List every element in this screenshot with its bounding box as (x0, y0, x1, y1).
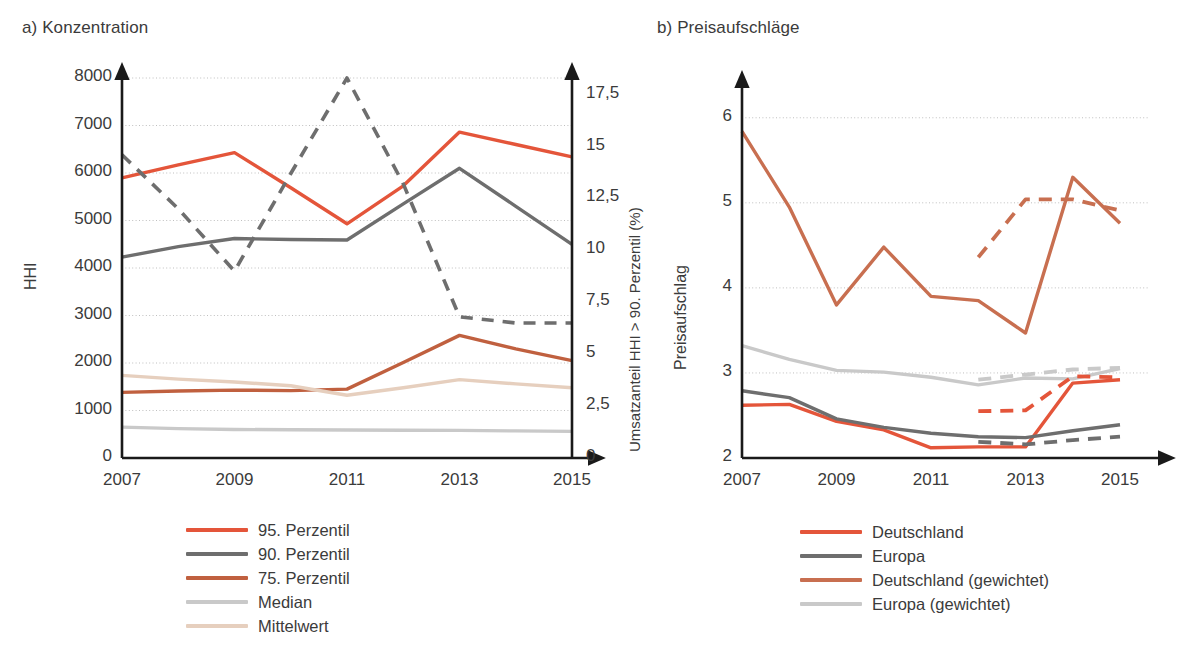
legend-swatch-icon (800, 530, 862, 534)
panel-preisaufschlaege: b) Preisaufschläge Preisaufschlag Deutsc… (650, 0, 1181, 653)
legend-label: Median (258, 593, 312, 612)
y2-tick-a-7,5: 7,5 (586, 290, 632, 310)
y2-tick-a-2,5: 2,5 (586, 394, 632, 414)
legend-swatch-icon (800, 578, 862, 582)
legend-item-a-4[interactable]: Mittelwert (186, 614, 350, 638)
y-tick-a-0: 0 (18, 446, 112, 466)
legend-konzentration: 95. Perzentil90. Perzentil75. PerzentilM… (186, 518, 350, 638)
y2-tick-a-15: 15 (586, 135, 632, 155)
x-tick-b-2013: 2013 (986, 470, 1066, 490)
y-tick-b-3: 3 (658, 361, 732, 381)
legend-label: 75. Perzentil (258, 569, 350, 588)
legend-item-b-0[interactable]: Deutschland (800, 520, 1049, 544)
y2-tick-a-10: 10 (586, 238, 632, 258)
legend-swatch-icon (800, 554, 862, 558)
y-tick-b-2: 2 (658, 446, 732, 466)
legend-label: Europa (872, 547, 925, 566)
x-tick-a-2015: 2015 (532, 470, 612, 490)
legend-label: Deutschland (872, 523, 964, 542)
y-tick-b-6: 6 (658, 106, 732, 126)
y-tick-a-3000: 3000 (18, 304, 112, 324)
legend-swatch-icon (186, 576, 248, 580)
y-tick-a-4000: 4000 (18, 256, 112, 276)
legend-swatch-icon (186, 624, 248, 628)
legend-swatch-icon (186, 600, 248, 604)
legend-item-a-1[interactable]: 90. Perzentil (186, 542, 350, 566)
x-tick-a-2013: 2013 (420, 470, 500, 490)
legend-label: Europa (gewichtet) (872, 595, 1011, 614)
legend-label: 95. Perzentil (258, 521, 350, 540)
legend-item-a-3[interactable]: Median (186, 590, 350, 614)
y-tick-b-4: 4 (658, 276, 732, 296)
y2-tick-a-0: 0 (586, 446, 632, 466)
legend-swatch-icon (186, 552, 248, 556)
y-tick-a-5000: 5000 (18, 209, 112, 229)
y2-tick-a-12,5: 12,5 (586, 186, 632, 206)
legend-label: Deutschland (gewichtet) (872, 571, 1049, 590)
panel-konzentration: a) Konzentration HHI Umsatzanteil HHI > … (0, 0, 650, 653)
y-tick-b-5: 5 (658, 191, 732, 211)
x-tick-a-2009: 2009 (195, 470, 275, 490)
y-tick-a-8000: 8000 (18, 66, 112, 86)
legend-label: Mittelwert (258, 617, 329, 636)
x-tick-b-2009: 2009 (797, 470, 877, 490)
x-tick-b-2007: 2007 (702, 470, 782, 490)
y2-tick-a-17,5: 17,5 (586, 83, 632, 103)
legend-item-b-3[interactable]: Europa (gewichtet) (800, 592, 1049, 616)
legend-item-a-2[interactable]: 75. Perzentil (186, 566, 350, 590)
y-tick-a-7000: 7000 (18, 114, 112, 134)
chart-b-plot (650, 0, 1181, 500)
x-tick-a-2007: 2007 (82, 470, 162, 490)
y2-tick-a-5: 5 (586, 342, 632, 362)
legend-item-b-1[interactable]: Europa (800, 544, 1049, 568)
y-tick-a-1000: 1000 (18, 399, 112, 419)
legend-swatch-icon (800, 602, 862, 606)
legend-item-a-0[interactable]: 95. Perzentil (186, 518, 350, 542)
legend-label: 90. Perzentil (258, 545, 350, 564)
y-tick-a-6000: 6000 (18, 161, 112, 181)
legend-swatch-icon (186, 528, 248, 532)
legend-preisaufschlaege: DeutschlandEuropaDeutschland (gewichtet)… (800, 520, 1049, 616)
x-tick-b-2011: 2011 (891, 470, 971, 490)
y-tick-a-2000: 2000 (18, 351, 112, 371)
legend-item-b-2[interactable]: Deutschland (gewichtet) (800, 568, 1049, 592)
x-tick-b-2015: 2015 (1080, 470, 1160, 490)
x-tick-a-2011: 2011 (307, 470, 387, 490)
